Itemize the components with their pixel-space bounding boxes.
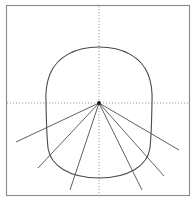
figure-canvas [0, 0, 196, 203]
figure-drawing [0, 0, 196, 203]
convergence-point [97, 101, 101, 105]
